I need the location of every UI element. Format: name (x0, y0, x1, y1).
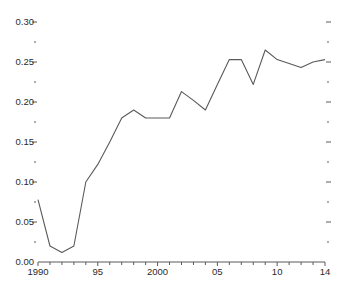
x-axis-tick-label: 10 (257, 267, 297, 277)
y-axis-tick-label: 0.30 (0, 17, 34, 27)
y-axis-tick-label: 0.25 (0, 57, 34, 67)
y-axis-tick-label: 0.10 (0, 177, 34, 187)
x-axis-tick-label: 95 (78, 267, 118, 277)
y-axis-tick-label: 0.20 (0, 97, 34, 107)
x-axis-tick-label: 14 (305, 267, 345, 277)
y-axis-tick-label: 0.15 (0, 137, 34, 147)
chart-screenshot: 0.000.050.100.150.200.250.30 19909520000… (0, 0, 345, 288)
x-axis-tick-label: 05 (197, 267, 237, 277)
x-axis-tick-label: 2000 (138, 267, 178, 277)
line-chart (0, 0, 345, 288)
chart-background (0, 0, 345, 288)
x-axis-tick-label: 1990 (18, 267, 58, 277)
y-axis-tick-label: 0.05 (0, 217, 34, 227)
